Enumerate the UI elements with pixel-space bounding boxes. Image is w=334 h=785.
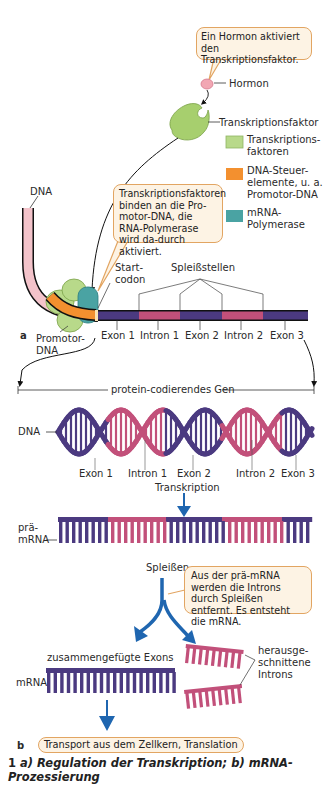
pre-mrna-base <box>293 521 296 543</box>
intron-base <box>211 690 216 706</box>
intron-base <box>198 648 203 664</box>
legend-rna-polymerase: mRNA- Polymerase <box>247 207 305 231</box>
pre-mrna-base <box>267 521 270 543</box>
pre-mrna-backbone <box>128 517 130 522</box>
pre-mrna-backbone <box>238 517 240 522</box>
intron-base <box>185 647 190 663</box>
splicing-label: Spleißen <box>146 562 189 574</box>
pre-mrna-base <box>306 521 309 543</box>
intron-base <box>191 648 196 664</box>
pre-mrna-backbone <box>278 517 280 522</box>
intron-base <box>211 650 216 666</box>
gene-a-exon-3 <box>263 312 308 320</box>
pre-mrna-base <box>92 521 95 543</box>
pre-mrna-backbone <box>200 517 202 522</box>
mrna-base <box>172 672 175 693</box>
mrna-base <box>133 672 136 693</box>
intron-base <box>218 689 223 705</box>
pre-mrna-base <box>209 521 212 543</box>
intron-base <box>224 688 229 704</box>
part-a-label: a <box>20 330 27 342</box>
excised-introns <box>184 644 244 709</box>
pre-mrna-backbone <box>154 517 156 522</box>
pre-mrna-base <box>66 521 69 543</box>
transcription-label: Transkription <box>155 482 220 494</box>
binding-bubble: Transkriptionsfaktoren binden an die Pro… <box>113 184 223 243</box>
pre-mrna-backbone <box>264 517 266 522</box>
pre-mrna-base <box>150 521 153 543</box>
intron-base <box>192 692 197 708</box>
mrna-base <box>139 672 142 693</box>
pre-mrna-backbone <box>102 517 104 522</box>
pre-mrna-base <box>85 521 88 543</box>
pre-mrna-comb <box>58 517 312 543</box>
gene-a-intron-1 <box>139 312 180 320</box>
pre-mrna-base <box>170 521 173 543</box>
gene-a-intron-2 <box>222 312 263 320</box>
mrna-base <box>100 672 103 693</box>
pre-mrna-backbone <box>76 517 78 522</box>
start-codon-label: Start- codon <box>115 262 145 286</box>
pre-mrna-base <box>274 521 277 543</box>
splicing-bubble: Aus der prä-mRNA werden die Introns durc… <box>184 566 312 614</box>
mrna-comb <box>46 668 176 693</box>
pre-mrna-base <box>222 521 225 543</box>
mrna-base <box>120 672 123 693</box>
pre-mrna-backbone <box>122 517 124 522</box>
pre-mrna-backbone <box>108 517 110 522</box>
splice-sites-label: Spleißstellen <box>171 262 235 274</box>
pre-mrna-base <box>261 521 264 543</box>
pre-mrna-backbone <box>160 517 162 522</box>
pre-mrna-base <box>254 521 257 543</box>
intron-base <box>230 652 235 668</box>
mrna-base <box>113 672 116 693</box>
mrna-label: mRNA <box>16 677 47 689</box>
splicing-bubble-pointer <box>168 590 185 594</box>
pre-mrna-backbone <box>174 517 176 522</box>
mrna-base <box>159 672 162 693</box>
legend-transcription-factors: Transkriptions- faktoren <box>247 134 320 158</box>
gene-bar-a <box>98 310 308 321</box>
intron-base <box>185 693 190 709</box>
pre-mrna-base <box>124 521 127 543</box>
legend-swatch-dna-control <box>226 168 243 180</box>
segment-b-exon-1: Exon 1 <box>79 468 113 480</box>
segment-a-intron-1: Intron 1 <box>140 330 179 342</box>
pre-mrna-base <box>287 521 290 543</box>
pre-mrna-base <box>196 521 199 543</box>
hormone-bubble: Ein Hormon aktiviert den Transkriptionsf… <box>196 27 312 60</box>
mrna-base <box>47 672 50 693</box>
transcription-factor-label: Transkriptionsfaktor <box>219 117 318 129</box>
pre-mrna-backbone <box>304 517 306 522</box>
pre-mrna-base <box>105 521 108 543</box>
promoter-dna-label: Promotor- DNA <box>36 333 85 357</box>
pre-mrna-backbone <box>232 517 234 522</box>
gene-a-exon-2 <box>180 312 222 320</box>
pre-mrna-base <box>300 521 303 543</box>
hormone-arrow <box>203 90 208 103</box>
pre-mrna-backbone <box>96 517 98 522</box>
pre-mrna-backbone <box>148 517 150 522</box>
pre-mrna-base <box>280 521 283 543</box>
gene-a-exon-1 <box>98 312 139 320</box>
segment-b-exon-3: Exon 3 <box>281 468 315 480</box>
dna-label-b: DNA <box>18 426 40 438</box>
segment-b-intron-1: Intron 1 <box>128 468 167 480</box>
segment-a-exon-1: Exon 1 <box>101 330 135 342</box>
intron-base <box>237 687 242 703</box>
pre-mrna-base <box>215 521 218 543</box>
pre-mrna-backbone <box>206 517 208 522</box>
pre-mrna-base <box>163 521 166 543</box>
pre-mrna-base <box>131 521 134 543</box>
legend-dna-control-elements: DNA-Steuer- elemente, u. a. Promotor-DNA <box>247 165 323 201</box>
legend-swatch-transcription-factors <box>226 136 243 148</box>
excised-intron <box>184 644 244 669</box>
zoom-curve-right <box>304 340 314 384</box>
pre-mrna-base <box>183 521 186 543</box>
pre-mrna-base <box>157 521 160 543</box>
pre-mrna-base <box>98 521 101 543</box>
pre-mrna-base <box>228 521 231 543</box>
pre-mrna-base <box>241 521 244 543</box>
mrna-base <box>80 672 83 693</box>
pre-mrna-base <box>72 521 75 543</box>
